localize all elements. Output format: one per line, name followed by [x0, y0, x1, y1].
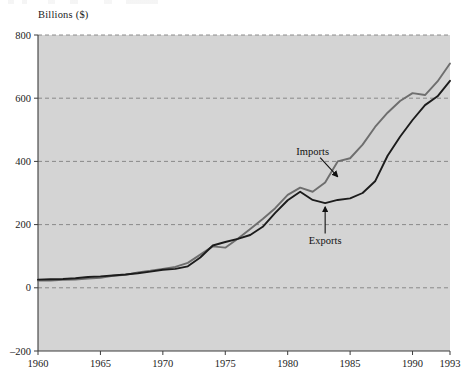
x-tick-label-1975: 1975: [215, 358, 236, 369]
y-tick-label-200: 200: [15, 219, 31, 230]
plot-background: [38, 35, 450, 351]
x-tick-label-1960: 1960: [28, 358, 49, 369]
x-tick-label-1970: 1970: [152, 358, 173, 369]
x-tick-group: 19601965197019751980198519901993: [28, 351, 461, 369]
x-tick-label-1985: 1985: [340, 358, 361, 369]
y-tick-group: –2000200400600800: [9, 30, 38, 357]
y-tick-label-800: 800: [15, 30, 31, 41]
x-tick-label-1990: 1990: [402, 358, 423, 369]
y-tick-label-400: 400: [15, 156, 31, 167]
x-tick-label-1993: 1993: [440, 358, 461, 369]
x-tick-label-1965: 1965: [90, 358, 111, 369]
y-tick-label--200: –200: [9, 346, 31, 357]
annotation-label-exports: Exports: [309, 235, 342, 246]
y-tick-label-600: 600: [15, 93, 31, 104]
chart-figure: Billions ($) –2000200400600800 196019651…: [0, 0, 464, 381]
line-chart-plot: –2000200400600800 1960196519701975198019…: [0, 0, 464, 381]
annotation-label-imports: Imports: [296, 146, 329, 157]
y-tick-label-0: 0: [26, 282, 31, 293]
x-tick-label-1980: 1980: [277, 358, 298, 369]
